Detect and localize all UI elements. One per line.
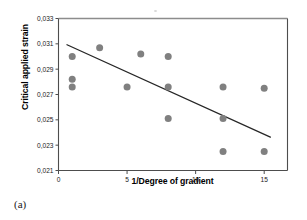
scan-artifact-speck bbox=[154, 10, 157, 12]
data-point bbox=[261, 148, 268, 155]
y-axis-title: Critical applied strain bbox=[18, 0, 32, 143]
data-point bbox=[261, 85, 268, 92]
figure-caption: (a) bbox=[14, 198, 26, 210]
scatter-chart: 0,0210,0230,0250,0270,0290,0310,033 0510… bbox=[0, 0, 307, 190]
x-axis-title: 1/Degree of gradient bbox=[58, 176, 287, 186]
data-point bbox=[220, 83, 227, 90]
data-point bbox=[69, 53, 76, 60]
y-tick-label: 0,021 bbox=[26, 167, 54, 174]
data-point bbox=[165, 115, 172, 122]
data-point bbox=[96, 44, 103, 51]
data-point bbox=[137, 50, 144, 57]
data-points bbox=[69, 44, 268, 155]
data-point bbox=[165, 83, 172, 90]
figure-a: 0,0210,0230,0250,0270,0290,0310,033 0510… bbox=[0, 0, 307, 220]
data-point bbox=[69, 76, 76, 83]
data-point bbox=[165, 53, 172, 60]
data-point bbox=[124, 83, 131, 90]
data-point bbox=[220, 148, 227, 155]
plot-frame bbox=[59, 19, 288, 171]
data-point bbox=[220, 115, 227, 122]
axis-ticks bbox=[56, 19, 265, 175]
data-point bbox=[69, 83, 76, 90]
